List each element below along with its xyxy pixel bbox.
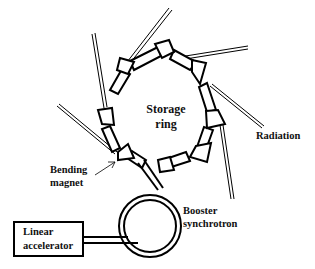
bending-magnet-label-line2: magnet — [50, 177, 84, 188]
booster-label-line2: synchrotron — [183, 218, 238, 229]
bending-magnet-right — [206, 110, 225, 128]
bending-magnet-bottom-left — [118, 144, 134, 160]
bending-magnet-label-line1: Bending — [50, 164, 88, 175]
beamline-top-left-vertical — [92, 33, 107, 108]
accelerator-diagram: Storage ring Radiation Bending magnet Bo… — [0, 0, 315, 269]
beamline-right-vertical — [220, 125, 234, 199]
bending-magnet-left — [98, 108, 114, 125]
radiation-label: Radiation — [256, 130, 301, 141]
straight-section — [130, 47, 161, 70]
storage-ring-label-line2: ring — [155, 117, 176, 131]
storage-ring-label-line1: Storage — [146, 102, 186, 116]
bending-magnet-top-left — [117, 58, 134, 74]
linac-connection — [83, 237, 138, 243]
linac-label-line1: Linear — [23, 226, 54, 237]
bending-magnet-arrow-icon — [95, 162, 115, 175]
bending-magnet-upper-right — [192, 60, 206, 84]
booster-synchrotron — [119, 195, 181, 257]
bending-magnet-lower-right — [190, 143, 211, 162]
booster-label-line1: Booster — [183, 205, 218, 216]
bending-magnet-bottom — [158, 157, 174, 172]
straight-section — [199, 83, 216, 112]
linac-label-line2: accelerator — [23, 240, 73, 251]
straight-section — [102, 126, 120, 152]
